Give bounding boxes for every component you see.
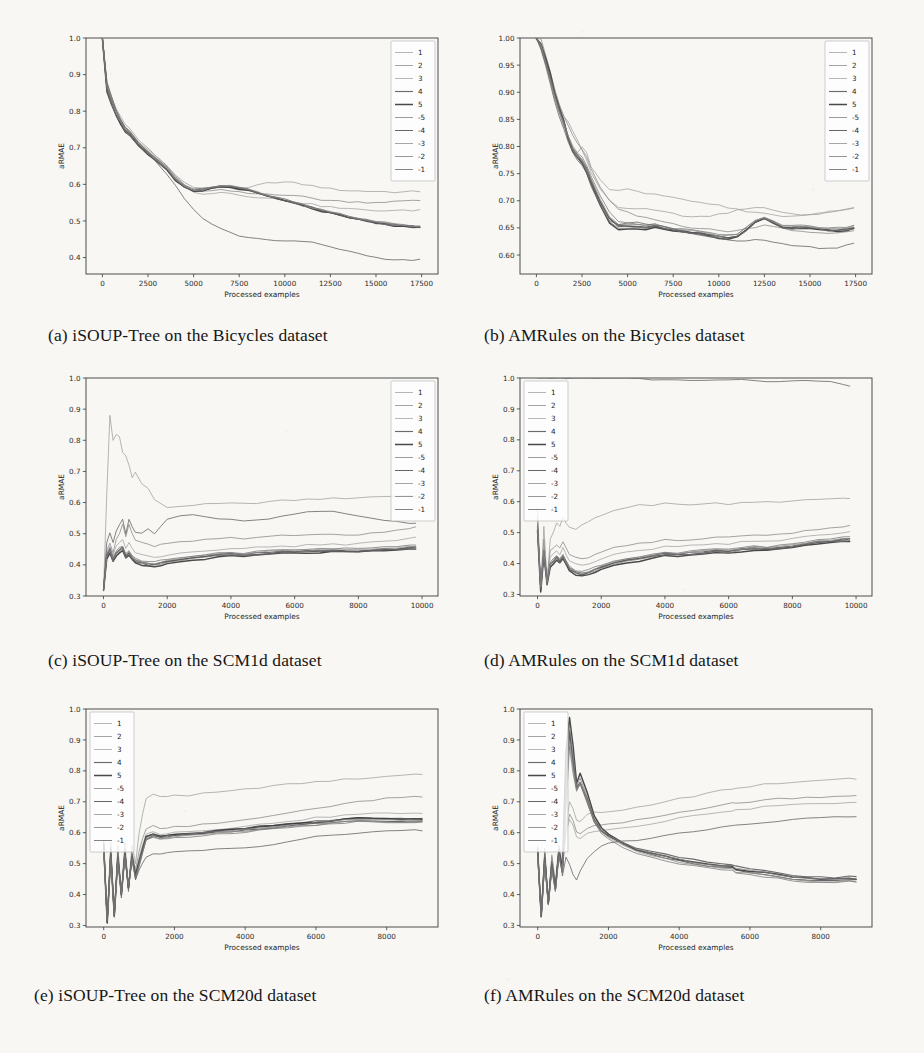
svg-text:1.0: 1.0: [503, 705, 515, 714]
svg-text:Processed examples: Processed examples: [658, 290, 733, 299]
svg-text:0.7: 0.7: [69, 467, 80, 476]
series-line-4: [104, 547, 416, 590]
svg-text:17500: 17500: [844, 279, 867, 288]
legend-label--5: -5: [418, 453, 425, 462]
svg-text:0.6: 0.6: [69, 498, 81, 507]
legend-label-3: 3: [551, 414, 556, 423]
legend-label-4: 4: [551, 758, 556, 767]
legend-label-4: 4: [418, 427, 423, 436]
svg-text:12500: 12500: [319, 279, 342, 288]
series-line--2: [104, 821, 422, 920]
svg-text:Processed examples: Processed examples: [224, 943, 299, 952]
svg-text:12500: 12500: [753, 279, 776, 288]
legend-label--5: -5: [551, 784, 558, 793]
legend-label-1: 1: [418, 388, 423, 397]
svg-text:aRMAE: aRMAE: [57, 805, 66, 831]
svg-text:0.65: 0.65: [498, 223, 514, 232]
series-line-5: [536, 39, 853, 240]
legend-label-1: 1: [418, 48, 423, 57]
legend-label-4: 4: [551, 427, 556, 436]
svg-text:0.5: 0.5: [503, 859, 514, 868]
svg-text:0.8: 0.8: [69, 436, 81, 445]
legend-label--1: -1: [852, 165, 859, 174]
legend-label-5: 5: [852, 100, 857, 109]
svg-text:0.4: 0.4: [503, 890, 515, 899]
svg-text:aRMAE: aRMAE: [491, 474, 500, 500]
chart-panel-b: 0.600.650.700.750.800.850.900.951.000250…: [478, 24, 878, 314]
series-line-5: [538, 718, 856, 917]
svg-text:0.4: 0.4: [69, 560, 81, 569]
svg-text:0.9: 0.9: [503, 736, 515, 745]
chart-svg-c: 0.30.40.50.60.70.80.91.00200040006000800…: [44, 366, 444, 638]
caption-c: (c) iSOUP-Tree on the SCM1d dataset: [48, 650, 322, 671]
svg-text:1.0: 1.0: [69, 374, 81, 383]
svg-text:10000: 10000: [273, 279, 296, 288]
legend-label-4: 4: [852, 87, 857, 96]
series-line-3: [536, 38, 853, 216]
svg-text:0.9: 0.9: [69, 405, 81, 414]
legend-label-5: 5: [418, 440, 423, 449]
chart-panel-f: 0.30.40.50.60.70.80.91.00200040006000800…: [478, 697, 878, 969]
legend-label--5: -5: [418, 113, 425, 122]
svg-text:0.85: 0.85: [498, 115, 514, 124]
legend-label-5: 5: [551, 440, 556, 449]
legend-label--5: -5: [117, 784, 124, 793]
legend-label-5: 5: [551, 771, 556, 780]
series-line-2: [104, 796, 422, 923]
svg-text:Processed examples: Processed examples: [658, 612, 733, 621]
legend-label--2: -2: [551, 823, 558, 832]
legend-label--1: -1: [418, 165, 425, 174]
svg-text:6000: 6000: [720, 601, 739, 610]
series-line-4: [102, 39, 419, 228]
chart-svg-a: 0.40.50.60.70.80.91.00250050007500100001…: [44, 24, 444, 314]
legend-label-1: 1: [852, 48, 857, 57]
caption-e: (e) iSOUP-Tree on the SCM20d dataset: [34, 985, 316, 1006]
svg-text:0: 0: [100, 279, 105, 288]
svg-text:0.75: 0.75: [498, 169, 514, 178]
svg-text:0.4: 0.4: [69, 253, 81, 262]
legend-label--1: -1: [551, 836, 558, 845]
legend-label-4: 4: [117, 758, 122, 767]
svg-text:Processed examples: Processed examples: [658, 943, 733, 952]
series-line-2: [536, 39, 853, 234]
svg-text:4000: 4000: [236, 932, 255, 941]
svg-text:1.00: 1.00: [498, 34, 514, 43]
legend-label--5: -5: [551, 453, 558, 462]
caption-a: (a) iSOUP-Tree on the Bicycles dataset: [48, 325, 328, 346]
legend-label-3: 3: [117, 745, 122, 754]
legend-label-5: 5: [418, 100, 423, 109]
legend-label--4: -4: [418, 126, 426, 135]
series-line--3: [102, 38, 419, 227]
legend-label--3: -3: [551, 479, 558, 488]
legend-label-3: 3: [418, 414, 423, 423]
svg-text:4000: 4000: [222, 601, 241, 610]
svg-text:0.4: 0.4: [69, 890, 81, 899]
svg-text:Processed examples: Processed examples: [224, 612, 299, 621]
svg-text:15000: 15000: [365, 279, 388, 288]
series-line-4: [536, 39, 853, 238]
legend: 12345-5-4-3-2-1: [825, 41, 869, 181]
series-line--3: [538, 526, 850, 587]
svg-text:5000: 5000: [618, 279, 637, 288]
svg-text:7500: 7500: [664, 279, 683, 288]
chart-svg-f: 0.30.40.50.60.70.80.91.00200040006000800…: [478, 697, 878, 969]
legend-label--2: -2: [551, 492, 558, 501]
svg-text:Processed examples: Processed examples: [224, 290, 299, 299]
chart-panel-a: 0.40.50.60.70.80.91.00250050007500100001…: [44, 24, 444, 314]
svg-text:0.7: 0.7: [503, 797, 514, 806]
svg-text:2500: 2500: [573, 279, 592, 288]
legend-label-1: 1: [117, 719, 122, 728]
svg-text:15000: 15000: [799, 279, 822, 288]
svg-text:10000: 10000: [707, 279, 730, 288]
series-line--5: [536, 38, 853, 238]
series-line--5: [102, 38, 419, 228]
svg-text:0.6: 0.6: [69, 828, 81, 837]
svg-text:8000: 8000: [378, 932, 397, 941]
legend-label--4: -4: [551, 797, 559, 806]
legend-label-1: 1: [551, 719, 556, 728]
svg-text:2000: 2000: [592, 601, 611, 610]
chart-svg-b: 0.600.650.700.750.800.850.900.951.000250…: [478, 24, 878, 314]
svg-text:0.3: 0.3: [503, 590, 514, 599]
legend-label--4: -4: [551, 466, 559, 475]
legend-label-4: 4: [418, 87, 423, 96]
